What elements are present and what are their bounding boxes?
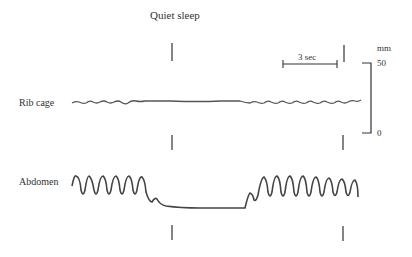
sleep-state-markers	[172, 43, 344, 241]
abdomen-trace	[72, 176, 358, 208]
amplitude-scale-bar	[362, 63, 371, 133]
time-scale-bar	[283, 60, 337, 68]
rib-cage-trace	[72, 100, 361, 104]
respiration-traces	[0, 0, 412, 257]
